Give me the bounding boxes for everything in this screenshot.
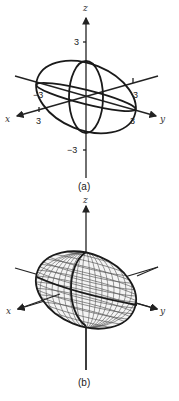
ellipsoid-figures: z x y 3 −3 3 −3 3 3 (a) bbox=[0, 0, 179, 401]
y-tick-3: 3 bbox=[130, 116, 135, 126]
z-tick-3: 3 bbox=[74, 37, 79, 47]
x-axis-label: x bbox=[6, 306, 11, 316]
y-tick-neg3: 3 bbox=[133, 90, 138, 100]
x-axis-label: x bbox=[5, 114, 10, 124]
caption-a: (a) bbox=[78, 181, 90, 192]
z-axis-label: z bbox=[82, 195, 88, 205]
z-axis-label: z bbox=[82, 3, 88, 13]
z-tick-neg3: −3 bbox=[67, 145, 77, 155]
caption-b: (b) bbox=[78, 377, 90, 388]
figure-b: z x y (b) bbox=[6, 195, 166, 388]
figure-a: z x y 3 −3 3 −3 3 3 (a) bbox=[5, 3, 166, 192]
x-tick-3: 3 bbox=[36, 116, 41, 126]
y-axis-label: y bbox=[159, 306, 166, 316]
y-axis-label: y bbox=[159, 114, 166, 124]
x-tick-neg3: −3 bbox=[33, 90, 43, 100]
